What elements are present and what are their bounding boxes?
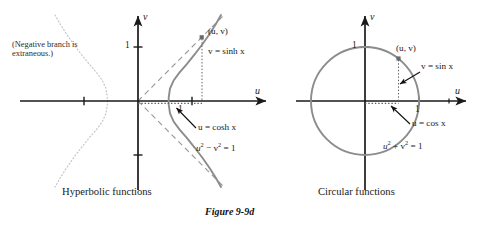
- hyperbolic-panel-title: Hyperbolic functions: [62, 186, 152, 198]
- circular-cos-leader: [391, 106, 410, 124]
- panel-circular: [296, 16, 466, 190]
- extraneous-branch-note: (Negative branch is extraneous.): [12, 40, 92, 59]
- hyperbolic-equation-label: u2 − v2 = 1: [196, 143, 236, 153]
- hyperbolic-sinh-label: v = sinh x: [208, 46, 245, 56]
- hyperbolic-eq-mid: − v: [204, 143, 218, 153]
- hyperbolic-v-tick-label: 1: [125, 40, 130, 51]
- hyperbolic-eq-tail: = 1: [221, 143, 235, 153]
- circular-v-axis-label: v: [370, 11, 374, 22]
- circular-point-label: (u, v): [396, 43, 416, 53]
- circular-equation-label: u2 + v2 = 1: [383, 141, 423, 151]
- figure-container: (Negative branch is extraneous.) 1 1 v u…: [0, 0, 484, 225]
- hyperbolic-u-tick-label: 1: [178, 104, 183, 115]
- circular-v-tick-label: 1: [352, 40, 357, 51]
- circular-sin-label: v = sin x: [421, 61, 453, 71]
- hyperbolic-u-axis-label: u: [255, 85, 260, 96]
- circular-eq-tail: = 1: [408, 141, 422, 151]
- hyperbolic-point-label: (u, v): [208, 26, 228, 36]
- hyperbolic-v-axis-label: v: [143, 11, 147, 22]
- circular-u-tick-label: 1: [415, 104, 420, 115]
- circular-point-marker: [396, 56, 400, 60]
- circular-eq-mid: + v: [391, 141, 405, 151]
- hyperbolic-cosh-label: u = cosh x: [198, 122, 236, 132]
- circular-panel-title: Circular functions: [318, 186, 395, 198]
- hyperbolic-point-marker: [200, 35, 204, 39]
- circular-sin-leader: [400, 72, 420, 84]
- circular-u-axis-label: u: [455, 85, 460, 96]
- figure-caption: Figure 9-9d: [205, 206, 254, 217]
- circular-cos-label: u = cos x: [412, 118, 446, 128]
